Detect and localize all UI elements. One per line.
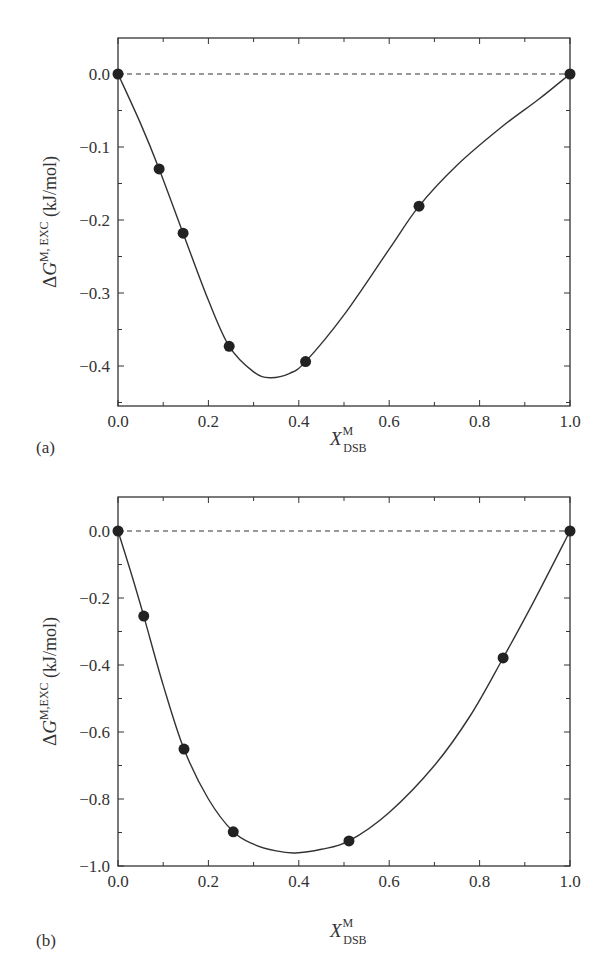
x-tick-label: 0.6 [379,412,400,431]
y-axis-title: ΔGM, EXC (kJ/mol) [37,156,61,288]
y-tick-label: −0.6 [79,723,110,742]
data-point [228,826,239,837]
y-axis-title: ΔGM,EXC (kJ/mol) [37,617,61,746]
data-point [565,526,576,537]
y-tick-label: 0.0 [89,65,110,84]
panel-label: (a) [36,438,55,457]
fit-curve [118,531,570,853]
panel-label: (b) [36,931,56,950]
x-tick-label: 0.2 [198,412,219,431]
data-point [178,228,189,239]
data-point [138,611,149,622]
data-point [498,652,509,663]
data-point [414,201,425,212]
plot-frame [118,497,570,866]
chart-panel-a: 0.00.20.40.60.81.00.0−0.1−0.2−0.3−0.4ΔGM… [36,38,581,457]
data-point [113,69,124,80]
x-axis-title: XMDSB [329,916,367,947]
x-tick-label: 1.0 [559,412,580,431]
x-tick-label: 0.0 [107,872,128,891]
x-tick-label: 0.4 [288,412,310,431]
y-tick-label: −0.1 [79,138,110,157]
data-point [565,69,576,80]
data-point [300,356,311,367]
chart-panel-b: 0.00.20.40.60.81.00.0−0.2−0.4−0.6−0.8−1.… [36,497,581,950]
y-tick-label: −0.2 [79,211,110,230]
x-tick-label: 1.0 [559,872,580,891]
y-tick-label: −0.3 [79,284,110,303]
plot-frame [118,38,570,406]
data-point [154,163,165,174]
x-tick-label: 0.8 [469,412,490,431]
fit-curve [118,74,570,378]
data-point [224,341,235,352]
x-tick-label: 0.2 [198,872,219,891]
x-tick-label: 0.8 [469,872,490,891]
x-tick-label: 0.6 [379,872,400,891]
y-tick-label: −1.0 [79,857,110,876]
data-point [178,744,189,755]
y-tick-label: −0.4 [79,656,110,675]
x-tick-label: 0.0 [107,412,128,431]
y-tick-label: −0.8 [79,790,110,809]
data-point [113,526,124,537]
x-tick-label: 0.4 [288,872,310,891]
y-tick-label: 0.0 [89,522,110,541]
y-tick-label: −0.4 [79,357,110,376]
y-tick-label: −0.2 [79,589,110,608]
data-point [343,835,354,846]
figure: 0.00.20.40.60.81.00.0−0.1−0.2−0.3−0.4ΔGM… [0,0,614,979]
x-axis-title: XMDSB [329,424,367,455]
